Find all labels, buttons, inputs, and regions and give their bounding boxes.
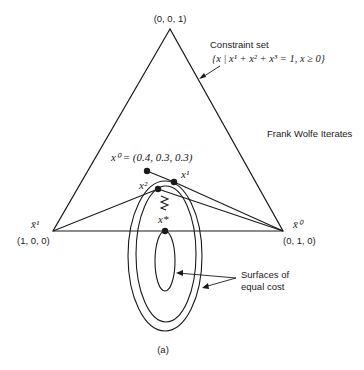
vertex-top-coord: (0, 0, 1) <box>154 13 187 24</box>
figure-caption: (a) <box>157 344 169 355</box>
point-xstar <box>162 228 168 234</box>
iterate-xstar-label: x* <box>157 213 169 225</box>
vertex-left-coord: (1, 0, 0) <box>17 235 50 246</box>
contour-pointer-arrow-outer <box>204 278 236 287</box>
arrowhead-icon <box>199 73 206 79</box>
point-x1 <box>171 179 177 185</box>
vertex-left-name: x̄¹ <box>30 218 39 230</box>
cost-contour-inner <box>155 231 175 291</box>
constraint-set-label: Constraint set <box>210 39 269 50</box>
zigzag-convergence-icon <box>161 196 168 210</box>
contours-label-line2: equal cost <box>241 281 285 292</box>
contours-label-line1: Surfaces of <box>241 269 289 280</box>
iterate-x2-label: x² <box>138 179 148 191</box>
vertex-right-name: x̄⁰ <box>292 218 304 230</box>
point-x2 <box>155 186 161 192</box>
arrowhead-icon <box>176 270 183 276</box>
contour-pointer-arrow-inner <box>178 273 236 278</box>
point-x0 <box>144 168 150 174</box>
iterate-x0-label: x⁰ = (0.4, 0.3, 0.3) <box>110 151 193 164</box>
path-vertex0-to-x2 <box>158 189 283 231</box>
iterate-x1-label: x¹ <box>180 168 189 180</box>
frank-wolfe-diagram: (0, 0, 1) Constraint set {x | x¹ + x² + … <box>0 0 364 370</box>
path-x2-to-vertex1 <box>53 189 158 231</box>
figure-title: Frank Wolfe Iterates <box>267 128 353 139</box>
path-x1-to-vertex0 <box>174 182 283 231</box>
arrowhead-icon <box>202 283 209 289</box>
path-x0-to-x1 <box>147 171 174 182</box>
vertex-right-coord: (0, 1, 0) <box>283 235 316 246</box>
constraint-set-formula: {x | x¹ + x² + x³ = 1, x ≥ 0} <box>212 53 326 64</box>
